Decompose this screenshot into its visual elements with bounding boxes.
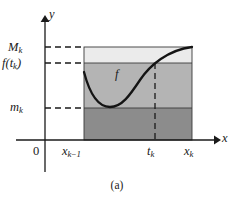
x-label-right-endpoint: xk (184, 145, 193, 159)
x-axis-label: x (222, 132, 228, 145)
y-label-upper-bound: Mk (8, 41, 22, 55)
figure-canvas (0, 0, 234, 201)
y-label-sample-value: f(tk) (2, 57, 21, 71)
origin-label: 0 (33, 145, 39, 158)
x-label-left-endpoint: xk−1 (62, 145, 81, 159)
figure-caption: (a) (0, 180, 234, 192)
band-lower-mk-to-axis (84, 108, 192, 140)
band-upper-Mk-to-ftk (84, 47, 192, 63)
x-label-sample-point: tk (147, 145, 154, 159)
figure-riemann-sum-interval: Mk f(tk) mk 0 xk−1 tk xk x y f (a) (0, 0, 234, 201)
curve-label-f: f (115, 68, 118, 81)
y-label-lower-bound: mk (10, 101, 23, 115)
y-axis-label: y (49, 8, 55, 21)
band-middle-ftk-to-mk (84, 63, 192, 108)
x-axis-arrowhead (214, 136, 221, 145)
